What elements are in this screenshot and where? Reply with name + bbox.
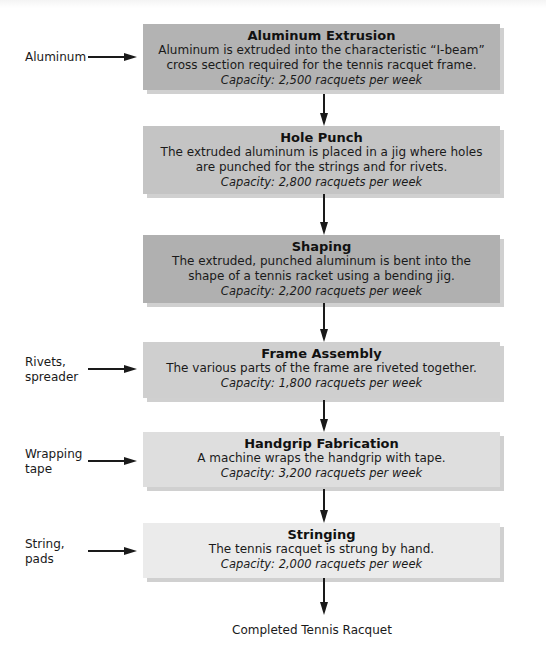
input-label-string-pads: String, pads <box>25 537 65 567</box>
arrow-right-icon <box>124 365 137 373</box>
input-arrow-aluminum <box>88 53 137 61</box>
stage-description: Aluminum is extruded into the characteri… <box>143 43 500 73</box>
arrow-shaft <box>88 550 126 552</box>
stage-description: The extruded aluminum is placed in a jig… <box>143 145 500 175</box>
input-arrow-wrapping-tape <box>88 457 137 465</box>
stage-capacity: Capacity: 3,200 racquets per week <box>143 466 500 481</box>
input-label-aluminum: Aluminum <box>25 50 86 65</box>
input-arrow-string-pads <box>88 547 137 555</box>
flow-arrow-4-5 <box>320 400 328 432</box>
stage-title: Frame Assembly <box>143 346 500 361</box>
arrow-down-icon <box>320 329 328 342</box>
stage-box-frame-assembly: Frame Assembly The various parts of the … <box>143 342 500 398</box>
stage-title: Aluminum Extrusion <box>143 28 500 43</box>
arrow-shaft <box>88 368 126 370</box>
arrow-shaft <box>323 194 325 225</box>
arrow-right-icon <box>124 457 137 465</box>
top-cropped-caption-strip <box>0 0 546 8</box>
stage-description: The tennis racquet is strung by hand. <box>143 542 500 557</box>
arrow-down-icon <box>320 222 328 235</box>
stage-capacity: Capacity: 2,000 racquets per week <box>143 557 500 572</box>
arrow-down-icon <box>320 510 328 523</box>
arrow-shaft <box>323 303 325 332</box>
stage-capacity: Capacity: 2,800 racquets per week <box>143 175 500 190</box>
flow-arrow-2-3 <box>320 194 328 235</box>
arrow-right-icon <box>124 547 137 555</box>
stage-box-shaping: Shaping The extruded, punched aluminum i… <box>143 235 500 303</box>
flow-arrow-1-2 <box>320 94 328 126</box>
arrow-down-icon <box>320 113 328 126</box>
arrow-down-icon <box>320 602 328 615</box>
stage-title: Handgrip Fabrication <box>143 436 500 451</box>
stage-box-hole-punch: Hole Punch The extruded aluminum is plac… <box>143 126 500 194</box>
stage-title: Shaping <box>143 239 500 254</box>
arrow-down-icon <box>320 419 328 432</box>
stage-title: Hole Punch <box>143 130 500 145</box>
input-arrow-rivets-spreader <box>88 365 137 373</box>
arrow-right-icon <box>124 53 137 61</box>
input-label-rivets-spreader: Rivets, spreader <box>25 355 78 385</box>
arrow-shaft <box>323 578 325 605</box>
stage-description: The various parts of the frame are rivet… <box>143 361 500 376</box>
flow-arrow-5-6 <box>320 489 328 523</box>
stage-description: A machine wraps the handgrip with tape. <box>143 451 500 466</box>
stage-title: Stringing <box>143 527 500 542</box>
output-label-completed-racquet: Completed Tennis Racquet <box>0 623 546 638</box>
stage-box-handgrip-fabrication: Handgrip Fabrication A machine wraps the… <box>143 432 500 487</box>
input-label-wrapping-tape: Wrapping tape <box>25 447 82 477</box>
arrow-shaft <box>88 56 126 58</box>
stage-capacity: Capacity: 1,800 racquets per week <box>143 376 500 391</box>
arrow-shaft <box>88 460 126 462</box>
stage-capacity: Capacity: 2,200 racquets per week <box>143 284 500 299</box>
stage-box-stringing: Stringing The tennis racquet is strung b… <box>143 523 500 578</box>
flow-arrow-6-output <box>320 578 328 615</box>
flow-arrow-3-4 <box>320 303 328 342</box>
stage-capacity: Capacity: 2,500 racquets per week <box>143 73 500 88</box>
stage-box-aluminum-extrusion: Aluminum Extrusion Aluminum is extruded … <box>143 24 500 90</box>
stage-description: The extruded, punched aluminum is bent i… <box>143 254 500 284</box>
